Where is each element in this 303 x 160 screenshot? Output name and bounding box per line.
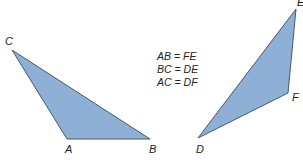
vertex-label-c: C xyxy=(5,36,13,47)
vertex-label-f: F xyxy=(292,92,299,103)
equality-bc-de: BC = DE xyxy=(157,63,198,76)
vertex-label-a: A xyxy=(65,144,72,155)
vertex-label-d: D xyxy=(196,144,204,155)
triangle-def xyxy=(198,9,296,138)
triangle-abc xyxy=(12,50,150,139)
equalities-list: AB = FE BC = DE AC = DF xyxy=(157,50,198,89)
equality-ac-df: AC = DF xyxy=(157,76,198,89)
vertex-label-b: B xyxy=(149,144,156,155)
vertex-label-e: E xyxy=(297,0,303,8)
equality-ab-fe: AB = FE xyxy=(157,50,198,63)
triangles-figure xyxy=(0,0,303,160)
